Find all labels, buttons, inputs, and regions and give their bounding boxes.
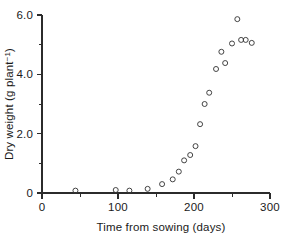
x-tick-label: 0 — [39, 201, 46, 213]
y-axis-title-tail: ) — [3, 48, 15, 52]
data-point-marker — [230, 41, 235, 46]
x-tick-label: 300 — [260, 201, 280, 213]
chart-figure: 010020030002.04.06.0 Time from sowing (d… — [0, 0, 293, 242]
axis-tick-labels: 010020030002.04.06.0 — [16, 9, 279, 213]
y-tick-label: 6.0 — [16, 9, 33, 21]
data-point-marker — [160, 182, 165, 187]
data-point-marker — [113, 188, 118, 193]
data-point-marker — [202, 102, 207, 107]
data-point-marker — [249, 40, 254, 45]
y-tick-label: 2.0 — [16, 128, 33, 140]
x-axis-title: Time from sowing (days) — [97, 221, 226, 233]
data-point-marker — [235, 17, 240, 22]
y-axis-title-main: Dry weight (g plant — [3, 61, 15, 160]
data-point-marker — [198, 122, 203, 127]
axes — [42, 15, 270, 193]
y-axis-title: Dry weight (g plant−1) — [3, 48, 16, 160]
y-tick-label: 4.0 — [16, 68, 33, 80]
data-point-marker — [182, 158, 187, 163]
y-axis-title-superscript: −1 — [3, 52, 12, 62]
data-point-marker — [188, 153, 193, 158]
data-point-marker — [219, 49, 224, 54]
data-point-marker — [214, 66, 219, 71]
data-point-marker — [223, 61, 228, 66]
axis-ticks — [37, 15, 271, 199]
data-point-marker — [145, 186, 150, 191]
x-tick-label: 100 — [108, 201, 128, 213]
data-point-marker — [127, 188, 132, 193]
data-point-marker — [176, 169, 181, 174]
data-point-marker — [170, 177, 175, 182]
y-tick-label: 0 — [26, 187, 33, 199]
scatter-plot: 010020030002.04.06.0 Time from sowing (d… — [0, 0, 293, 242]
x-tick-label: 200 — [184, 201, 204, 213]
data-point-marker — [193, 144, 198, 149]
data-point-marker — [73, 188, 78, 193]
data-point-marker — [207, 90, 212, 95]
data-points — [73, 17, 254, 193]
